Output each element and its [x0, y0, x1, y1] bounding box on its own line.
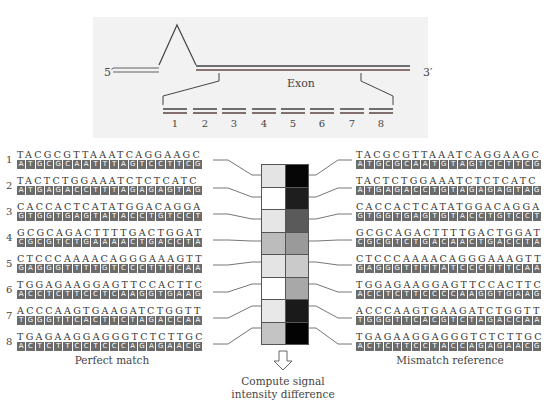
base-cell: T: [505, 212, 513, 221]
base-cell: G: [393, 264, 401, 273]
base-cell: C: [129, 238, 137, 247]
base-cell: G: [486, 238, 494, 247]
base-cell: A: [82, 316, 90, 325]
base-cell: C: [523, 212, 531, 221]
base-cell: T: [91, 264, 99, 273]
base-cell: C: [402, 238, 410, 247]
base-cell: A: [156, 238, 164, 247]
base-cell: A: [365, 264, 373, 273]
base-cell: C: [468, 212, 476, 221]
sequence-top-strand: TACTCTGGAAATCTCTCATC: [17, 175, 199, 186]
base-cell: G: [505, 186, 513, 195]
sequence-bottom-strand: GTGGTGAGTGTACCTGTCCT: [356, 212, 541, 221]
base-cell: G: [533, 186, 541, 195]
base-cell: C: [421, 290, 429, 299]
base-cell: T: [175, 160, 183, 169]
base-cell: G: [147, 186, 155, 195]
base-cell: A: [184, 316, 192, 325]
base-cell: A: [175, 342, 183, 351]
base-cell: C: [449, 290, 457, 299]
sequence-top-strand: TGGAGAAGGAGTTCCACTTC: [17, 279, 204, 290]
base-cell: T: [468, 316, 476, 325]
base-cell: G: [45, 238, 53, 247]
base-cell: A: [495, 316, 503, 325]
base-cell: T: [412, 264, 420, 273]
base-cell: C: [412, 316, 420, 325]
mm-intensity-cell: [286, 188, 309, 210]
base-cell: T: [412, 238, 420, 247]
base-cell: T: [430, 264, 438, 273]
base-cell: C: [514, 212, 522, 221]
base-cell: C: [384, 342, 392, 351]
base-cell: A: [101, 212, 109, 221]
base-cell: G: [54, 264, 62, 273]
base-cell: G: [495, 342, 503, 351]
sequence-bottom-strand: CGCGTCTGACAACTGACCTA: [356, 238, 541, 247]
base-cell: G: [138, 290, 146, 299]
base-cell: A: [119, 160, 127, 169]
base-cell: A: [421, 160, 429, 169]
base-cell: C: [421, 186, 429, 195]
base-cell: T: [402, 342, 410, 351]
base-cell: G: [147, 238, 155, 247]
base-cell: C: [147, 160, 155, 169]
base-cell: C: [458, 316, 466, 325]
base-cell: G: [156, 212, 164, 221]
base-cell: G: [375, 186, 383, 195]
sequence-bottom-strand: ATGCGCAATGTAGTCCTTCG: [356, 160, 541, 169]
base-cell: C: [91, 290, 99, 299]
fragment-number: 3: [224, 118, 244, 129]
base-cell: C: [184, 212, 192, 221]
sequence-bottom-strand: ACCTCTTCCCCAAGGTGAAG: [356, 290, 541, 299]
fragment-1: [163, 108, 187, 114]
base-cell: C: [17, 238, 25, 247]
base-cell: A: [468, 342, 476, 351]
base-cell: T: [393, 316, 401, 325]
base-cell: C: [412, 186, 420, 195]
pm-intensity-cell: [262, 300, 286, 322]
base-cell: T: [73, 238, 81, 247]
base-cell: G: [17, 264, 25, 273]
base-cell: T: [393, 238, 401, 247]
fragment-number: 8: [371, 118, 391, 129]
base-cell: T: [449, 160, 457, 169]
sequence-top-strand: TGAGAAGGAGGGTCTCTTGC: [17, 331, 205, 342]
base-cell: C: [73, 342, 81, 351]
base-cell: G: [375, 212, 383, 221]
pm-intensity-cell: [262, 210, 286, 232]
base-cell: T: [54, 316, 62, 325]
base-cell: C: [166, 316, 174, 325]
base-cell: T: [421, 264, 429, 273]
base-cell: G: [156, 342, 164, 351]
base-cell: T: [45, 290, 53, 299]
base-cell: T: [138, 238, 146, 247]
base-cell: T: [495, 264, 503, 273]
base-cell: A: [119, 186, 127, 195]
probe-row: [262, 210, 308, 233]
base-cell: G: [495, 212, 503, 221]
sequence-bottom-strand: ATGAGACCTGTAGAGAGTAG: [356, 186, 541, 195]
base-cell: G: [101, 264, 109, 273]
base-cell: T: [495, 290, 503, 299]
base-cell: G: [194, 342, 202, 351]
base-cell: A: [129, 290, 137, 299]
base-cell: G: [356, 264, 364, 273]
fragment-6: [310, 108, 334, 114]
base-cell: T: [101, 160, 109, 169]
row-number: 2: [6, 180, 12, 191]
sequence-top-strand: CTCCCAAAACAGGGAAAGTT: [356, 253, 543, 264]
fragment-number: 1: [165, 118, 185, 129]
base-cell: T: [430, 212, 438, 221]
base-cell: C: [421, 342, 429, 351]
base-cell: G: [486, 316, 494, 325]
base-cell: A: [514, 342, 522, 351]
base-cell: A: [356, 186, 364, 195]
base-cell: A: [356, 290, 364, 299]
base-cell: G: [194, 290, 202, 299]
base-cell: G: [533, 160, 541, 169]
base-cell: G: [440, 160, 448, 169]
base-cell: T: [356, 316, 364, 325]
base-cell: A: [421, 316, 429, 325]
sequence-bottom-strand: ACCTCTTCCTCAAGGTGAAG: [17, 290, 202, 299]
base-cell: A: [82, 160, 90, 169]
